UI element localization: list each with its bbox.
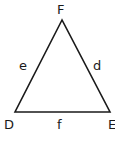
side-label-f: f [57,117,62,132]
vertex-label-e: E [108,117,115,132]
vertex-label-f: F [57,2,64,17]
triangle-svg: F D E e d f [0,0,115,149]
vertex-label-d: D [4,117,14,132]
side-label-d: d [93,58,101,73]
triangle-diagram: F D E e d f [0,0,115,149]
side-label-e: e [19,58,27,73]
